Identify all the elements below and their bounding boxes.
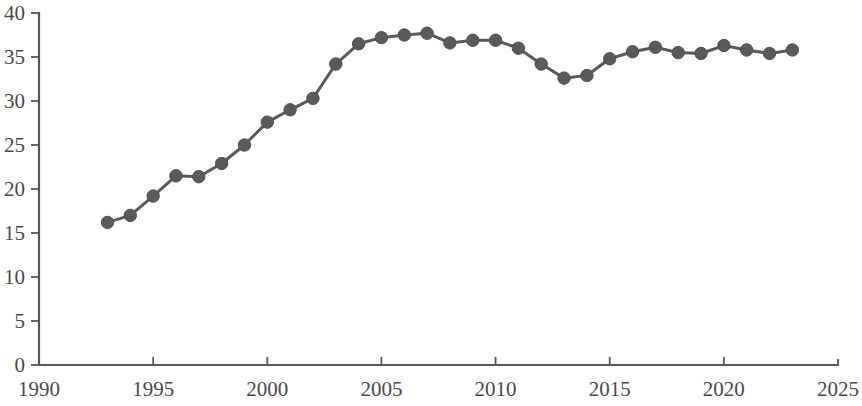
- data-point-marker: [581, 69, 593, 81]
- data-point-marker: [215, 157, 227, 169]
- data-point-marker: [421, 27, 433, 39]
- data-point-marker: [307, 92, 319, 104]
- data-point-marker: [535, 58, 547, 70]
- data-point-marker: [672, 46, 684, 58]
- x-axis: 19901995200020052010201520202025: [18, 357, 859, 401]
- data-point-marker: [124, 209, 136, 221]
- data-point-marker: [718, 39, 730, 51]
- data-point-marker: [398, 29, 410, 41]
- y-tick-label: 25: [4, 133, 25, 157]
- data-point-marker: [786, 44, 798, 56]
- y-tick-label: 10: [4, 265, 25, 289]
- data-point-marker: [626, 46, 638, 58]
- x-tick-label: 1995: [132, 377, 174, 401]
- y-axis: 0510152025303540: [4, 1, 39, 377]
- y-tick-label: 30: [4, 89, 25, 113]
- data-point-marker: [147, 190, 159, 202]
- x-tick-label: 2015: [589, 377, 631, 401]
- x-tick-label: 1990: [18, 377, 60, 401]
- y-tick-label: 20: [4, 177, 25, 201]
- data-point-marker: [444, 37, 456, 49]
- data-point-marker: [193, 170, 205, 182]
- data-point-marker: [238, 139, 250, 151]
- y-tick-label: 15: [4, 221, 25, 245]
- data-point-marker: [604, 53, 616, 65]
- x-tick-label: 2020: [703, 377, 745, 401]
- y-tick-label: 5: [15, 309, 26, 333]
- x-tick-label: 2000: [246, 377, 288, 401]
- data-point-marker: [375, 31, 387, 43]
- line-chart: 0510152025303540 19901995200020052010201…: [0, 0, 862, 406]
- data-point-marker: [330, 58, 342, 70]
- x-tick-label: 2005: [360, 377, 402, 401]
- data-point-marker: [512, 42, 524, 54]
- y-tick-label: 0: [15, 353, 26, 377]
- data-point-marker: [489, 34, 501, 46]
- data-point-marker: [101, 216, 113, 228]
- chart-container: 0510152025303540 19901995200020052010201…: [0, 0, 862, 406]
- data-point-marker: [763, 47, 775, 59]
- data-point-marker: [467, 34, 479, 46]
- data-point-marker: [649, 41, 661, 53]
- plot-area: [101, 27, 798, 229]
- x-tick-label: 2010: [475, 377, 517, 401]
- data-point-marker: [352, 38, 364, 50]
- data-point-marker: [170, 170, 182, 182]
- data-point-marker: [261, 116, 273, 128]
- data-point-marker: [284, 104, 296, 116]
- data-point-marker: [695, 47, 707, 59]
- y-tick-label: 40: [4, 1, 25, 25]
- data-point-marker: [740, 44, 752, 56]
- y-tick-label: 35: [4, 45, 25, 69]
- data-series-line: [107, 33, 792, 222]
- x-tick-label: 2025: [817, 377, 859, 401]
- data-point-marker: [558, 72, 570, 84]
